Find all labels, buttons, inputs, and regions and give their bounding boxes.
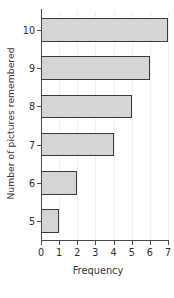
y-axis-tick-labels: 1098765 xyxy=(19,11,38,240)
y-axis-tick-mark xyxy=(37,106,41,107)
gridline-vertical xyxy=(95,11,96,240)
x-axis-tick-label: 0 xyxy=(38,247,44,258)
y-axis-tick-mark xyxy=(37,221,41,222)
bar xyxy=(41,95,132,119)
y-axis-tick-mark xyxy=(37,68,41,69)
x-axis-tick-mark xyxy=(114,241,115,245)
gridline-vertical xyxy=(168,11,169,240)
gridline-vertical xyxy=(59,11,60,240)
x-axis-tick-label: 7 xyxy=(165,247,171,258)
bar xyxy=(41,209,59,233)
x-axis-tick-label: 2 xyxy=(74,247,80,258)
plot-area xyxy=(41,11,168,240)
gridline-vertical xyxy=(114,11,115,240)
bar xyxy=(41,133,114,157)
y-axis-tick-label: 6 xyxy=(29,177,35,188)
gridline-vertical xyxy=(132,11,133,240)
x-axis-tick-mark xyxy=(77,241,78,245)
x-axis-tick-label: 4 xyxy=(111,247,117,258)
y-axis-tick-label: 8 xyxy=(29,101,35,112)
x-axis-tick-label: 1 xyxy=(56,247,62,258)
x-axis-tick-mark xyxy=(41,241,42,245)
y-axis-title-text: Number of pictures remembered xyxy=(5,47,16,199)
bar xyxy=(41,171,77,195)
bar xyxy=(41,56,150,80)
x-axis-tick-mark xyxy=(150,241,151,245)
x-axis-title: Frequency xyxy=(0,265,174,276)
y-axis-title: Number of pictures remembered xyxy=(0,0,20,246)
y-axis-tick-mark xyxy=(37,30,41,31)
y-axis-tick-label: 9 xyxy=(29,63,35,74)
x-axis-title-text: Frequency xyxy=(51,265,124,276)
x-axis-tick-label: 6 xyxy=(147,247,153,258)
x-axis-tick-label: 5 xyxy=(129,247,135,258)
x-axis-tick-mark xyxy=(132,241,133,245)
x-axis-tick-mark xyxy=(168,241,169,245)
y-axis-line xyxy=(41,9,42,242)
y-axis-tick-label: 7 xyxy=(29,139,35,150)
bar-chart: Number of pictures remembered 1098765 01… xyxy=(0,0,174,298)
x-axis-tick-label: 3 xyxy=(92,247,98,258)
x-axis-tick-mark xyxy=(59,241,60,245)
bar xyxy=(41,18,168,42)
x-axis-tick-mark xyxy=(95,241,96,245)
gridline-vertical xyxy=(77,11,78,240)
gridline-vertical xyxy=(150,11,151,240)
y-axis-tick-label: 10 xyxy=(23,25,35,36)
y-axis-tick-mark xyxy=(37,183,41,184)
y-axis-tick-mark xyxy=(37,145,41,146)
y-axis-tick-label: 5 xyxy=(29,215,35,226)
